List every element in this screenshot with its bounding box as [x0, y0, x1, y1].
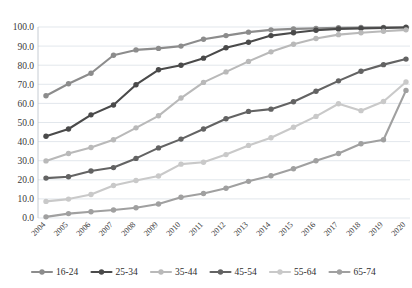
data-point	[381, 137, 386, 142]
data-point	[111, 207, 116, 212]
data-point	[133, 178, 138, 183]
series-25-34	[43, 25, 408, 139]
data-point	[313, 36, 318, 41]
x-tick-label: 2007	[97, 220, 115, 238]
data-point	[268, 49, 273, 54]
data-point	[43, 199, 48, 204]
data-point	[358, 141, 363, 146]
legend-label: 45-54	[235, 267, 257, 277]
x-tick-label: 2017	[322, 220, 340, 238]
legend-item-65-74[interactable]: 65-74	[330, 267, 376, 277]
data-point	[291, 41, 296, 46]
series-45-54	[43, 56, 408, 180]
data-point	[66, 151, 71, 156]
data-point	[156, 46, 161, 51]
data-point	[336, 101, 341, 106]
data-point	[43, 93, 48, 98]
x-tick-label: 2011	[187, 220, 205, 238]
data-point	[66, 196, 71, 201]
legend-item-45-54[interactable]: 45-54	[211, 267, 257, 277]
data-point	[43, 175, 48, 180]
data-point	[336, 151, 341, 156]
data-point	[178, 43, 183, 48]
legend-item-55-64[interactable]: 55-64	[270, 267, 316, 277]
data-point	[201, 55, 206, 60]
legend: 16-2425-3435-4445-5455-6465-74	[32, 267, 376, 277]
data-point	[313, 114, 318, 119]
legend-marker	[39, 269, 44, 274]
data-point	[381, 62, 386, 67]
data-point	[358, 69, 363, 74]
data-point	[133, 205, 138, 210]
y-axis-labels: 0.010.020.030.040.050.060.070.080.090.01…	[13, 22, 35, 223]
y-tick-label: 20.0	[17, 175, 34, 185]
data-point	[336, 32, 341, 37]
x-tick-label: 2010	[164, 220, 182, 238]
y-tick-label: 40.0	[17, 137, 34, 147]
data-point	[268, 135, 273, 140]
data-point	[88, 112, 93, 117]
data-point	[201, 160, 206, 165]
legend-item-35-44[interactable]: 35-44	[151, 267, 197, 277]
data-point	[381, 29, 386, 34]
series-16-24	[43, 24, 408, 98]
data-point	[156, 145, 161, 150]
data-point	[178, 62, 183, 67]
legend-label: 16-24	[56, 267, 78, 277]
data-point	[223, 69, 228, 74]
data-point	[133, 47, 138, 52]
data-point	[66, 126, 71, 131]
x-tick-label: 2020	[389, 220, 407, 238]
y-tick-label: 60.0	[17, 99, 34, 109]
data-point	[88, 209, 93, 214]
data-point	[178, 136, 183, 141]
data-point	[336, 78, 341, 83]
legend-marker	[337, 269, 342, 274]
legend-marker	[218, 269, 223, 274]
data-point	[358, 108, 363, 113]
data-point	[291, 125, 296, 130]
legend-label: 65-74	[354, 267, 376, 277]
data-point	[403, 79, 408, 84]
data-point	[111, 102, 116, 107]
data-point	[403, 88, 408, 93]
data-point	[111, 53, 116, 58]
line-chart: 0.010.020.030.040.050.060.070.080.090.01…	[0, 0, 412, 288]
x-tick-label: 2009	[142, 220, 160, 238]
data-point	[88, 168, 93, 173]
data-point	[43, 158, 48, 163]
data-point	[66, 174, 71, 179]
data-point	[88, 71, 93, 76]
x-tick-label: 2008	[119, 220, 137, 238]
legend-marker	[277, 269, 282, 274]
data-point	[246, 40, 251, 45]
x-tick-label: 2005	[52, 220, 70, 238]
legend-item-25-34[interactable]: 25-34	[92, 267, 138, 277]
data-point	[291, 30, 296, 35]
data-point	[358, 30, 363, 35]
data-point	[268, 173, 273, 178]
x-tick-label: 2013	[232, 220, 250, 238]
data-point	[111, 183, 116, 188]
legend-item-16-24[interactable]: 16-24	[32, 267, 78, 277]
data-point	[223, 116, 228, 121]
data-point	[201, 37, 206, 42]
data-point	[156, 173, 161, 178]
data-point	[133, 125, 138, 130]
x-axis-labels: 2004200520062007200820092010201120122013…	[29, 220, 407, 238]
x-tick-label: 2016	[299, 220, 317, 238]
data-point	[88, 145, 93, 150]
data-point	[313, 158, 318, 163]
data-point	[43, 134, 48, 139]
data-point	[156, 67, 161, 72]
data-point	[111, 165, 116, 170]
data-point	[246, 143, 251, 148]
y-tick-label: 50.0	[17, 118, 34, 128]
data-point	[88, 192, 93, 197]
data-point	[66, 81, 71, 86]
data-point	[43, 214, 48, 219]
data-point	[156, 201, 161, 206]
data-point	[268, 27, 273, 32]
y-tick-label: 90.0	[17, 42, 34, 52]
x-tick-label: 2012	[209, 220, 227, 238]
